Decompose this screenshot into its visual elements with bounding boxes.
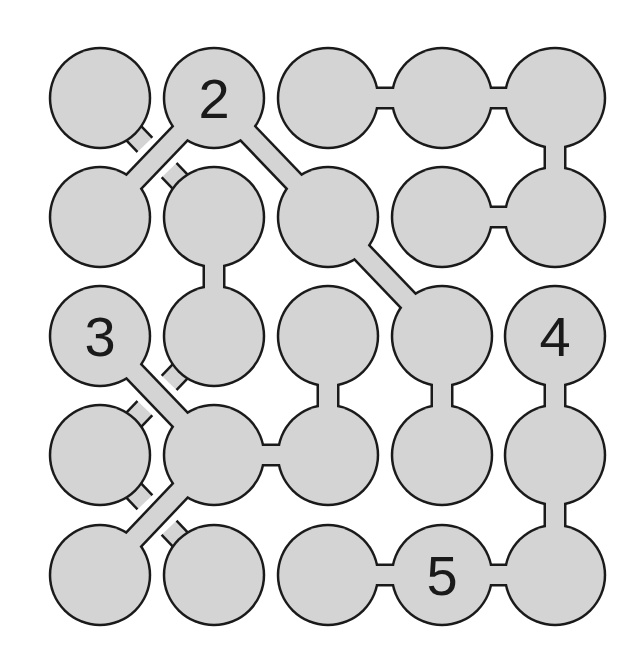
node-r2c0-label: 3	[84, 305, 115, 368]
node-r3c0[interactable]	[51, 406, 149, 504]
node-r3c3[interactable]	[393, 406, 491, 504]
node-r1c4[interactable]	[506, 168, 604, 266]
node-r3c2[interactable]	[279, 406, 377, 504]
node-r4c2[interactable]	[279, 526, 377, 624]
node-r2c1[interactable]	[165, 287, 263, 385]
node-r1c1[interactable]	[165, 168, 263, 266]
node-r1c0[interactable]	[51, 168, 149, 266]
node-r1c3[interactable]	[393, 168, 491, 266]
node-r3c4[interactable]	[506, 406, 604, 504]
node-r0c0[interactable]	[51, 49, 149, 147]
node-r4c4[interactable]	[506, 526, 604, 624]
node-r2c3[interactable]	[393, 287, 491, 385]
node-r2c2[interactable]	[279, 287, 377, 385]
node-r0c2[interactable]	[279, 49, 377, 147]
node-r3c1[interactable]	[165, 406, 263, 504]
node-r4c3-label: 5	[426, 544, 457, 607]
node-r0c3[interactable]	[393, 49, 491, 147]
node-r4c0[interactable]	[51, 526, 149, 624]
node-r0c4[interactable]	[506, 49, 604, 147]
node-r2c4-label: 4	[539, 305, 570, 368]
node-r1c2[interactable]	[279, 168, 377, 266]
node-r4c1[interactable]	[165, 526, 263, 624]
node-r0c1-label: 2	[198, 67, 229, 130]
connection-puzzle-board: 2345	[0, 0, 643, 665]
